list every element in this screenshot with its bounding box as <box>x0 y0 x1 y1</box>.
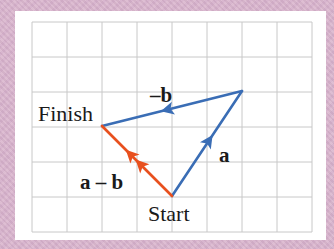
vector-a-minus-b-label: a – b <box>80 170 123 194</box>
start-label: Start <box>148 201 190 226</box>
vector-diagram: Finish Start a –b a – b <box>0 0 334 249</box>
vector-a-label: a <box>219 143 230 167</box>
arrowhead-icon <box>200 135 213 149</box>
diagram-stage: Finish Start a –b a – b <box>0 0 334 249</box>
finish-label: Finish <box>38 101 93 126</box>
vector-neg-b-label: –b <box>149 83 172 107</box>
